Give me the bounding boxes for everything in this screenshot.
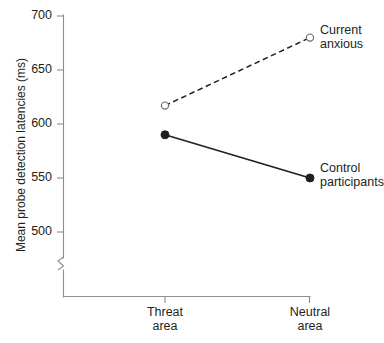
x-tick-label-neutral-line1: Neutral bbox=[290, 305, 330, 319]
x-tick-label-neutral-line2: area bbox=[297, 319, 322, 333]
series-line-current-anxious bbox=[165, 38, 310, 106]
y-tick-label-600: 600 bbox=[31, 116, 52, 130]
line-chart-svg: 700 650 600 550 500 Mean probe detection… bbox=[0, 0, 384, 343]
y-tick-label-500: 500 bbox=[31, 224, 52, 238]
y-tick-label-550: 550 bbox=[31, 170, 52, 184]
y-tick-label-700: 700 bbox=[31, 8, 52, 22]
data-point-control-participants-neutral bbox=[306, 174, 314, 182]
series-label-control-participants-line2: participants bbox=[320, 175, 384, 189]
data-point-control-participants-threat bbox=[161, 131, 169, 139]
data-point-current-anxious-neutral bbox=[306, 34, 313, 41]
series-label-current-anxious-line2: anxious bbox=[320, 37, 363, 51]
series-label-control-participants-line1: Control bbox=[320, 161, 360, 175]
data-point-current-anxious-threat bbox=[161, 102, 168, 109]
x-tick-label-threat-line2: area bbox=[152, 319, 177, 333]
series-line-control-participants bbox=[165, 135, 310, 178]
y-tick-label-650: 650 bbox=[31, 62, 52, 76]
x-tick-label-threat-line1: Threat bbox=[147, 305, 184, 319]
y-axis-title: Mean probe detection latencies (ms) bbox=[14, 58, 28, 252]
y-axis-break-icon bbox=[58, 257, 64, 270]
chart-figure: 700 650 600 550 500 Mean probe detection… bbox=[0, 0, 384, 343]
series-label-current-anxious-line1: Current bbox=[320, 23, 362, 37]
